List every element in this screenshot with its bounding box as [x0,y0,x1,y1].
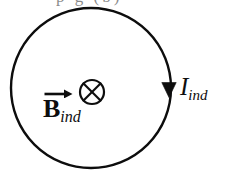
vector-arrow-icon [44,88,73,98]
into-page-symbol [80,80,104,104]
field-label: B ind [43,96,81,125]
field-label-subscript: ind [60,108,80,125]
field-label-vector-group: B [43,96,60,122]
current-label: Iind [180,74,208,103]
figure-canvas: p g (b) Iind B ind [0,0,228,170]
current-label-subscript: ind [188,87,207,103]
field-label-base: B [43,94,60,123]
current-loop-circle [11,8,171,168]
current-direction-arrowhead [162,83,176,98]
